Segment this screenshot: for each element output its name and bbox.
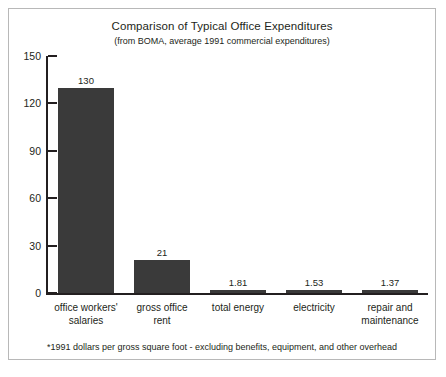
x-axis-category-label-line: repair and	[361, 301, 418, 314]
x-axis-category-labels: office workers'salariesgross officerentt…	[48, 301, 428, 341]
x-axis-category-label: repair andmaintenance	[361, 301, 418, 327]
bar	[58, 88, 114, 293]
title-block: Comparison of Typical Office Expenditure…	[9, 19, 435, 48]
x-axis-category-label: electricity	[293, 301, 335, 314]
bar-value-label: 130	[78, 75, 94, 86]
x-axis-category-label-line: gross office	[137, 301, 188, 314]
bar	[286, 290, 342, 293]
x-axis-category-label-line: maintenance	[361, 314, 418, 327]
bar-value-label: 1.81	[229, 277, 248, 288]
x-axis-category-label: gross officerent	[137, 301, 188, 327]
x-axis-category-label: office workers'salaries	[54, 301, 117, 327]
x-axis-category-label-line: electricity	[293, 301, 335, 314]
x-axis-line	[46, 293, 428, 295]
bar-value-label: 1.37	[381, 277, 400, 288]
x-axis-category-label-line: rent	[137, 314, 188, 327]
bars-layer: 130211.811.531.37	[48, 56, 428, 293]
y-axis-tick-label: 120	[23, 97, 41, 109]
bar	[362, 290, 418, 293]
x-axis-category-label-line: office workers'	[54, 301, 117, 314]
y-axis-tick-label: 90	[29, 145, 41, 157]
bar	[210, 290, 266, 293]
bar-value-label: 1.53	[305, 277, 324, 288]
y-axis-tick-label: 150	[23, 50, 41, 62]
plot-area: 0306090120150 130211.811.531.37	[46, 56, 428, 303]
chart-figure: Comparison of Typical Office Expenditure…	[8, 8, 436, 360]
chart-footnote: *1991 dollars per gross square foot - ex…	[9, 342, 435, 352]
y-axis-tick-label: 0	[35, 287, 41, 299]
chart-subtitle: (from BOMA, average 1991 commercial expe…	[9, 35, 435, 48]
bar	[134, 260, 190, 293]
y-axis-tick-label: 60	[29, 192, 41, 204]
x-axis-category-label-line: salaries	[54, 314, 117, 327]
x-axis-category-label: total energy	[212, 301, 264, 314]
x-axis-category-label-line: total energy	[212, 301, 264, 314]
y-axis-tick-label: 30	[29, 240, 41, 252]
chart-title: Comparison of Typical Office Expenditure…	[9, 19, 435, 34]
bar-value-label: 21	[157, 247, 168, 258]
